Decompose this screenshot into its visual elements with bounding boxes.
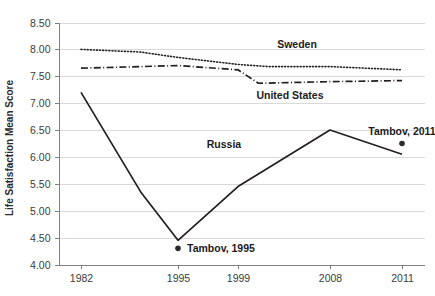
life-satisfaction-line-chart: 4.004.505.005.506.006.507.007.508.008.50… bbox=[0, 0, 435, 296]
y-axis-tick-label: 4.50 bbox=[30, 232, 51, 244]
y-axis-tick-label: 8.00 bbox=[30, 43, 51, 55]
series-label-united-states: United States bbox=[256, 89, 323, 101]
y-axis-tick-label: 7.50 bbox=[30, 70, 51, 82]
series-label-russia: Russia bbox=[207, 138, 242, 150]
tambov-2011-label: Tambov, 2011 bbox=[368, 125, 435, 137]
y-axis-tick-label: 6.00 bbox=[30, 151, 51, 163]
x-axis-tick-label: 2011 bbox=[391, 272, 414, 284]
x-axis-tick-label: 1999 bbox=[227, 272, 251, 284]
tambov-1995-label: Tambov, 1995 bbox=[187, 242, 255, 254]
x-axis-tick-label: 1995 bbox=[167, 272, 191, 284]
tambov-1995-marker bbox=[175, 246, 181, 252]
y-axis-tick-label: 8.50 bbox=[30, 17, 51, 29]
tambov-2011-marker bbox=[399, 141, 405, 147]
y-axis-tick-label: 5.50 bbox=[30, 178, 51, 190]
y-axis-tick-label: 4.00 bbox=[30, 259, 51, 271]
series-label-sweden: Sweden bbox=[277, 38, 317, 50]
y-axis-title: Life Satisfaction Mean Score bbox=[4, 79, 15, 216]
x-axis-tick-label: 1982 bbox=[70, 272, 94, 284]
y-axis-tick-label: 5.00 bbox=[30, 205, 51, 217]
y-axis-tick-label: 7.00 bbox=[30, 97, 51, 109]
x-axis-tick-label: 2008 bbox=[319, 272, 343, 284]
y-axis-tick-label: 6.50 bbox=[30, 124, 51, 136]
chart-canvas: 4.004.505.005.506.006.507.007.508.008.50… bbox=[0, 0, 435, 296]
